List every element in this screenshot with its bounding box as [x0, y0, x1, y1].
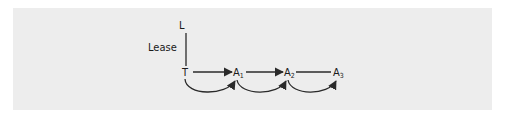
node-t: T [182, 67, 188, 78]
lease-assignment-diagram [0, 0, 506, 118]
edge-a2-a3-curve [288, 80, 336, 92]
node-a3: A3 [333, 67, 344, 80]
node-a1: A1 [233, 67, 244, 80]
node-a2: A2 [284, 67, 295, 80]
edge-t-a1-curve [185, 79, 235, 92]
edge-a1-a2-curve [237, 80, 286, 92]
node-l: L [179, 20, 185, 31]
edge-label-lease: Lease [148, 42, 177, 53]
